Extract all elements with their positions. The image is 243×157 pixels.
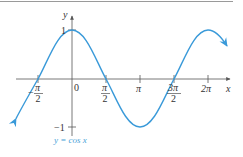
y-tick-label-1: 1 xyxy=(61,25,66,36)
tick-label-neg-pi-half-sign: − xyxy=(28,87,34,98)
tick-label-neg-pi-half-num: π xyxy=(35,82,41,93)
tick-label-pi-half-den: 2 xyxy=(103,93,108,104)
tick-label-neg-pi-half-den: 2 xyxy=(36,93,41,104)
tick-label-3pi-half-den: 2 xyxy=(171,93,176,104)
y-tick-label-neg1: −1 xyxy=(54,122,65,133)
tick-label-pi: π xyxy=(136,83,142,94)
cosine-graph: y x 1 −1 0 − π 2 π 2 π 3π 2 2π y = cos x xyxy=(0,0,243,157)
function-caption: y = cos x xyxy=(53,135,87,145)
y-axis-label: y xyxy=(62,9,68,20)
x-axis-label: x xyxy=(225,83,231,94)
cosine-curve xyxy=(16,30,227,127)
tick-label-2pi: 2π xyxy=(201,83,212,94)
origin-label: 0 xyxy=(74,82,79,93)
tick-label-pi-half-num: π xyxy=(102,82,108,93)
tick-label-3pi-half-num: 3π xyxy=(167,82,179,93)
